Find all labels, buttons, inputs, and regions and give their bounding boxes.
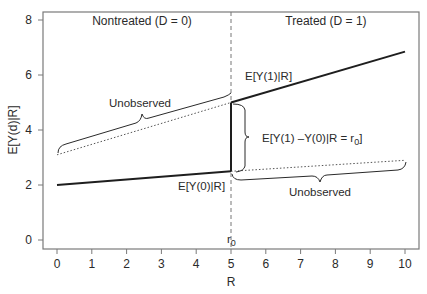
y-tick-6: 6	[25, 68, 32, 82]
brace-treatment-effect	[233, 104, 249, 172]
x-tick-1: 1	[88, 257, 95, 271]
x-axis-label: R	[227, 275, 236, 289]
y-tick-8: 8	[25, 13, 32, 27]
y1-counterfactual-line	[57, 103, 231, 155]
x-tick-labels: 0 1 2 3 4 5 6 7 8 9 10	[54, 257, 412, 271]
region-label-treated: Treated (D = 1)	[285, 14, 366, 28]
y-tick-2: 2	[25, 178, 32, 192]
brace-unobserved-right	[232, 162, 406, 182]
x-tick-6: 6	[262, 257, 269, 271]
y-axis	[38, 20, 43, 240]
x-tick-4: 4	[193, 257, 200, 271]
y-tick-labels: 0 2 4 6 8	[25, 13, 32, 247]
y0-counterfactual-line	[231, 160, 405, 171]
unobserved-right-label: Unobserved	[289, 186, 351, 198]
x-axis	[57, 249, 405, 254]
x-tick-7: 7	[297, 257, 304, 271]
y-tick-4: 4	[25, 123, 32, 137]
cutoff-label: r0	[227, 233, 236, 248]
y1-series-label: E[Y(1)|R]	[245, 70, 292, 82]
y-tick-0: 0	[25, 233, 32, 247]
unobserved-left-label: Unobserved	[109, 97, 171, 109]
x-tick-0: 0	[54, 257, 61, 271]
x-tick-9: 9	[367, 257, 374, 271]
x-tick-3: 3	[158, 257, 165, 271]
region-label-nontreated: Nontreated (D = 0)	[92, 14, 192, 28]
y-axis-label: E[Y(d)|R]	[6, 105, 20, 154]
treatment-effect-label: E[Y(1) –Y(0)|R = r0]	[262, 132, 362, 147]
rdd-chart: 0 2 4 6 8 0 1 2 3 4 5 6 7 8 9 10 R E[Y(d…	[0, 0, 427, 294]
x-tick-10: 10	[398, 257, 412, 271]
x-tick-8: 8	[332, 257, 339, 271]
y0-series-label: E[Y(0)|R]	[178, 180, 225, 192]
x-tick-5: 5	[228, 257, 235, 271]
x-tick-2: 2	[123, 257, 130, 271]
